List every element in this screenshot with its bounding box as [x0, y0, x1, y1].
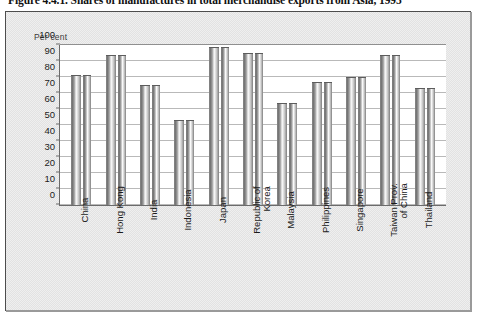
- bar-shadow: [152, 85, 160, 205]
- x-axis-label-slot: Malaysia: [269, 208, 303, 300]
- bar-shadow: [118, 55, 126, 205]
- bar[interactable]: [346, 77, 356, 205]
- x-axis-tick-label: Japan: [218, 197, 228, 223]
- bar[interactable]: [209, 47, 219, 205]
- y-axis-tick-label: 50: [44, 109, 55, 120]
- y-axis-tick-label: 40: [44, 125, 55, 136]
- bar-slot: [236, 45, 270, 205]
- bars-group: [60, 45, 446, 205]
- y-axis-tick-label: 10: [44, 173, 55, 184]
- plot-area: 0102030405060708090100: [59, 45, 446, 206]
- x-axis-labels-group: ChinaHong KongIndiaIndonesiaJapanRepubli…: [59, 208, 445, 300]
- bar-slot: [167, 45, 201, 205]
- bar-slot: [305, 45, 339, 205]
- bar-shadow: [83, 75, 91, 205]
- bar[interactable]: [415, 88, 425, 205]
- x-axis-label-slot: Indonesia: [166, 208, 200, 300]
- y-axis-tick-label: 60: [44, 93, 55, 104]
- bar-slot: [133, 45, 167, 205]
- x-axis-tick-label: Singapore: [355, 188, 365, 231]
- x-axis-label-slot: India: [132, 208, 166, 300]
- y-axis-tick-label: 20: [44, 157, 55, 168]
- figure-container: Figure 4.4.1. Shares of manufactures in …: [0, 0, 480, 322]
- y-axis-tick-label: 70: [44, 77, 55, 88]
- bar-shadow: [255, 53, 263, 205]
- bar-slot: [64, 45, 98, 205]
- x-axis-label-slot: Republic ofKorea: [235, 208, 269, 300]
- bar[interactable]: [106, 55, 116, 205]
- bar-shadow: [358, 77, 366, 205]
- y-axis-tick-label: 100: [39, 29, 55, 40]
- bar[interactable]: [243, 53, 253, 205]
- x-axis-label-slot: Singapore: [338, 208, 372, 300]
- bar[interactable]: [71, 75, 81, 205]
- y-axis-tick-label: 30: [44, 141, 55, 152]
- bar-slot: [408, 45, 442, 205]
- x-axis-tick-label: China: [80, 198, 90, 223]
- y-axis-tick-label: 80: [44, 61, 55, 72]
- x-axis-label-slot: Japan: [200, 208, 234, 300]
- bar-slot: [201, 45, 235, 205]
- x-axis-label-slot: Philippines: [304, 208, 338, 300]
- figure-caption: Figure 4.4.1. Shares of manufactures in …: [8, 0, 472, 8]
- x-axis-tick-label: Indonesia: [183, 189, 193, 230]
- y-axis-tick-label: 0: [50, 189, 55, 200]
- x-axis-label-slot: China: [63, 208, 97, 300]
- bar[interactable]: [277, 103, 287, 205]
- x-axis-label-slot: Hong Kong: [97, 208, 131, 300]
- x-axis-tick-label: Malaysia: [286, 191, 296, 229]
- x-axis-tick-label: Philippines: [321, 187, 331, 233]
- x-axis-tick-label: Hong Kong: [115, 186, 125, 234]
- x-axis-label-slot: Taiwan Prov.of China: [372, 208, 406, 300]
- x-axis-tick-label: India: [149, 200, 159, 221]
- x-axis-tick-label: Thailand: [424, 192, 434, 228]
- x-axis-label-slot: Thailand: [407, 208, 441, 300]
- bar-slot: [270, 45, 304, 205]
- bar[interactable]: [140, 85, 150, 205]
- bar-slot: [339, 45, 373, 205]
- bar-slot: [373, 45, 407, 205]
- bar-shadow: [427, 88, 435, 205]
- bar-slot: [98, 45, 132, 205]
- bar-shadow: [221, 47, 229, 205]
- bar-shadow: [289, 103, 297, 205]
- y-axis-tick-label: 90: [44, 45, 55, 56]
